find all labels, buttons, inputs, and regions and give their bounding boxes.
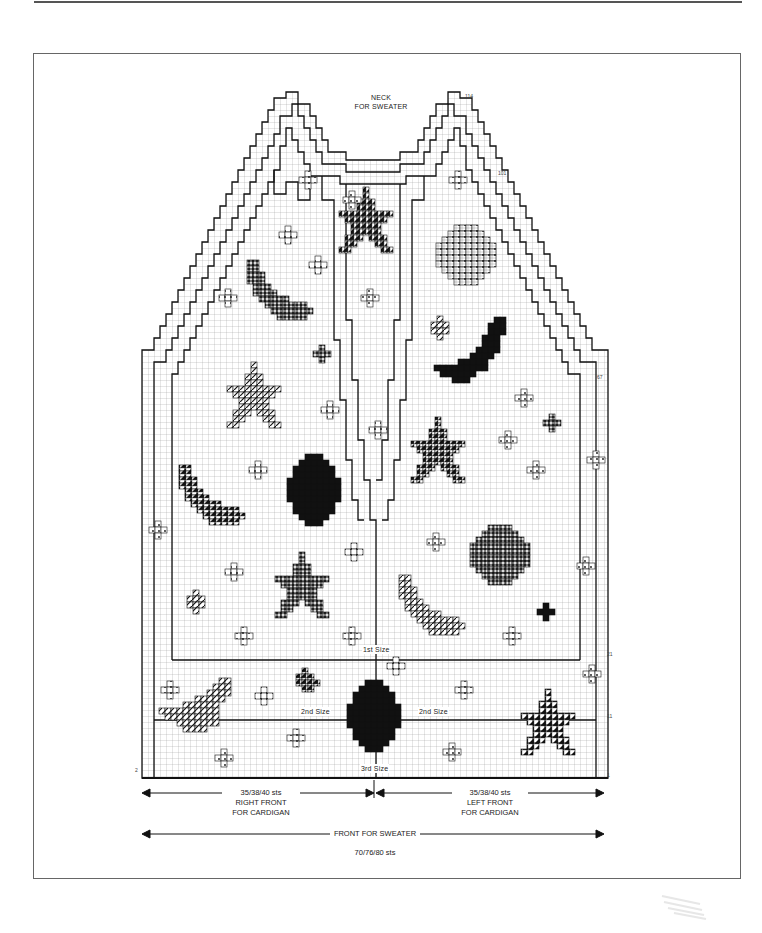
right-front-dimension: 35/38/40 sts RIGHT FRONT FOR CARDIGAN [222,788,300,818]
size-label-2nd-left: 2nd Size [300,707,331,716]
neck-label: NECK FOR SWEATER [350,93,412,111]
row-number-101: 101 [498,170,506,176]
row-number-114: 114 [465,93,473,99]
knitting-chart [0,0,762,933]
right-front-sts: 35/38/40 sts [222,788,300,798]
left-front-dimension: 35/38/40 sts LEFT FRONT FOR CARDIGAN [452,788,528,818]
front-sweater-label: FRONT FOR SWEATER [330,829,420,839]
right-front-sub: FOR CARDIGAN [222,808,300,818]
row-number-1: 1 [607,772,610,778]
row-number-11: 11 [607,713,612,719]
size-label-3rd: 3rd Size [360,764,389,773]
right-front-title: RIGHT FRONT [222,798,300,808]
size-label-1st: 1st Size [362,645,391,654]
left-front-sts: 35/38/40 sts [452,788,528,798]
neck-label-line2: FOR SWEATER [351,102,411,111]
watermark-icon [660,890,708,920]
row-number-67: 67 [597,374,603,380]
row-number-2: 2 [135,767,138,773]
size-label-2nd-right: 2nd Size [418,707,449,716]
left-front-sub: FOR CARDIGAN [452,808,528,818]
neck-label-line1: NECK [351,93,411,102]
left-front-title: LEFT FRONT [452,798,528,808]
row-number-21: 21 [607,651,613,657]
front-sweater-sts: 70/76/80 sts [330,848,420,858]
